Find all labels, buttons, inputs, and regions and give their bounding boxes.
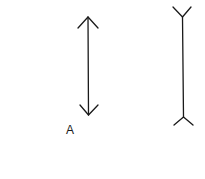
figure-a-shaft bbox=[88, 17, 89, 115]
figure-b-shaft bbox=[183, 17, 184, 117]
figure-b-bottom-fins-icon bbox=[174, 117, 193, 125]
figure-a-arrow-line bbox=[78, 17, 98, 115]
diagram-canvas bbox=[0, 0, 205, 179]
figure-b-fin-line bbox=[173, 7, 193, 125]
figure-a-label: A bbox=[66, 124, 74, 136]
muller-lyer-diagram: A bbox=[0, 0, 205, 179]
figure-b-top-fins-icon bbox=[173, 7, 191, 17]
